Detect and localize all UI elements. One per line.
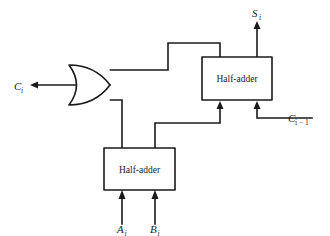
label-input-b-subscript: i: [158, 229, 160, 236]
label-carry-out: C i: [14, 80, 23, 95]
arrowhead-upper-half-adder-input-left: [217, 101, 224, 109]
arrowhead-input-b: [152, 190, 159, 199]
arrowhead-carry-in: [254, 101, 261, 109]
full-adder-diagram: Half-adder Half-adder C i S i C i − 1 A …: [0, 0, 330, 236]
label-input-a-subscript: i: [125, 229, 127, 236]
label-carry-out-subscript: i: [21, 86, 23, 95]
arrowhead-carry-out: [30, 82, 38, 89]
label-sum-out-subscript: i: [259, 13, 261, 22]
arrowhead-input-a: [119, 190, 126, 199]
label-carry-in: C i − 1: [288, 112, 309, 127]
arrowhead-sum-out: [254, 21, 261, 29]
upper-half-adder-label: Half-adder: [216, 74, 258, 84]
label-sum-out: S i: [252, 7, 261, 22]
lower-half-adder-label: Half-adder: [119, 165, 161, 175]
label-input-a: A i: [116, 223, 127, 236]
label-carry-in-subscript: i − 1: [295, 118, 309, 127]
label-input-a-name: A: [116, 223, 124, 235]
label-sum-out-name: S: [252, 7, 258, 19]
label-input-b-name: B: [150, 223, 157, 235]
wire-carry-in-to-upper-half-adder: [257, 105, 312, 118]
label-input-b: B i: [150, 223, 160, 236]
